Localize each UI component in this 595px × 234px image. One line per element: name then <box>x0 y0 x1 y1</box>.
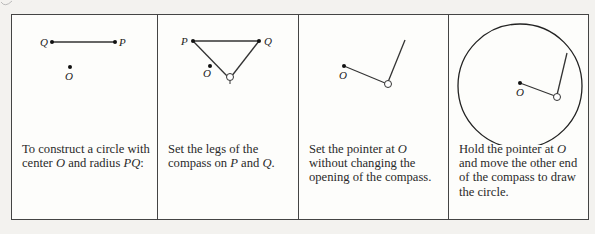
caption-text: . <box>272 156 275 170</box>
compass-at-o-diagram: O <box>299 15 449 140</box>
caption-var: O <box>56 156 65 170</box>
drawn-circle-diagram: O <box>449 15 591 145</box>
compass-hinge-icon <box>227 74 234 81</box>
caption-text: Set the pointer at <box>309 142 398 156</box>
caption-text: and <box>238 156 262 170</box>
point-o-icon <box>342 64 346 68</box>
point-q-icon <box>50 40 54 44</box>
point-o-icon <box>68 65 72 69</box>
corner-mark-icon <box>0 0 14 8</box>
label-q: Q <box>264 35 272 47</box>
caption-step-1: Set the legs of the compass on P and Q. <box>168 142 294 170</box>
label-o: O <box>65 70 73 82</box>
label-p: P <box>180 35 188 47</box>
caption-text: without changing the opening of the comp… <box>309 156 431 184</box>
caption-step-3: Hold the pointer at O and move the other… <box>459 142 584 199</box>
caption-text: and move the other end of the compass to… <box>459 156 577 198</box>
label-o: O <box>516 86 524 98</box>
caption-text: and radius <box>65 156 123 170</box>
panel-step-1: P Q O Set the legs of the compass on P a… <box>158 15 299 219</box>
segment-pq-diagram: Q P O <box>12 15 158 140</box>
caption-var: PQ <box>123 156 140 170</box>
label-o: O <box>203 67 211 79</box>
caption-var: O <box>557 142 566 156</box>
label-o: O <box>339 69 347 81</box>
caption-step-2: Set the pointer at O without changing th… <box>309 142 444 185</box>
label-p: P <box>118 36 126 48</box>
compass-on-pq-diagram: P Q O <box>158 15 299 140</box>
caption-var: O <box>398 142 407 156</box>
panel-step-0: Q P O To construct a circle with center … <box>12 15 158 219</box>
label-q: Q <box>40 36 48 48</box>
panel-step-2: O Set the pointer at O without changing … <box>299 15 449 219</box>
caption-text: : <box>140 156 144 170</box>
caption-text: Hold the pointer at <box>459 142 557 156</box>
compass-hinge-icon <box>385 81 392 88</box>
caption-var: P <box>230 156 238 170</box>
caption-var: Q <box>262 156 271 170</box>
compass-construction-table: Q P O To construct a circle with center … <box>11 14 589 220</box>
compass-hinge-icon <box>554 94 561 101</box>
point-o-icon <box>518 81 522 85</box>
caption-step-0: To construct a circle with center O and … <box>22 142 153 170</box>
panel-step-3: O Hold the pointer at O and move the oth… <box>449 15 588 219</box>
point-p-icon <box>113 40 117 44</box>
